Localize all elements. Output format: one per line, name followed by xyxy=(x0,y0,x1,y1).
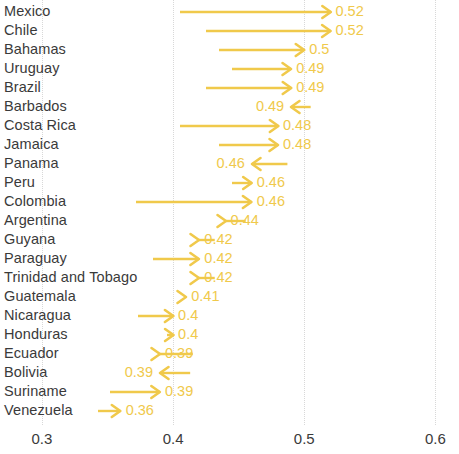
arrow-row: 0.49 xyxy=(0,60,459,78)
value-label: 0.49 xyxy=(256,99,284,114)
x-tick-label: 0.5 xyxy=(294,431,315,446)
arrow-row: 0.46 xyxy=(0,155,459,173)
value-label: 0.39 xyxy=(165,346,193,361)
arrow-glyph xyxy=(91,402,127,420)
arrow-row: 0.39 xyxy=(0,345,459,363)
arrow-glyph xyxy=(173,117,285,135)
arrow-row: 0.4 xyxy=(0,307,459,325)
value-label: 0.39 xyxy=(165,384,193,399)
x-axis: 0.30.40.50.6 xyxy=(0,425,459,454)
arrow-row: 0.42 xyxy=(0,250,459,268)
x-tick-label: 0.3 xyxy=(32,431,53,446)
value-label: 0.46 xyxy=(257,194,285,209)
arrow-row: 0.52 xyxy=(0,3,459,21)
arrow-glyph xyxy=(212,41,311,59)
arrow-glyph xyxy=(146,250,206,268)
arrow-row: 0.39 xyxy=(0,364,459,382)
arrow-glyph xyxy=(103,383,167,401)
value-label: 0.46 xyxy=(217,156,245,171)
value-label: 0.49 xyxy=(296,61,324,76)
value-label: 0.49 xyxy=(296,80,324,95)
arrow-glyph xyxy=(245,155,294,173)
arrow-row: 0.41 xyxy=(0,288,459,306)
arrow-row: 0.42 xyxy=(0,269,459,287)
arrow-row: 0.48 xyxy=(0,136,459,154)
arrow-glyph xyxy=(131,307,180,325)
value-label: 0.52 xyxy=(335,23,363,38)
arrow-glyph xyxy=(225,174,259,192)
arrow-glyph xyxy=(284,98,318,116)
value-label: 0.44 xyxy=(231,213,259,228)
value-label: 0.39 xyxy=(125,365,153,380)
arrow-row: 0.36 xyxy=(0,402,459,420)
value-label: 0.42 xyxy=(204,270,232,285)
value-label: 0.36 xyxy=(126,403,154,418)
value-label: 0.4 xyxy=(178,327,198,342)
arrow-glyph xyxy=(173,3,338,21)
value-label: 0.4 xyxy=(178,308,198,323)
value-label: 0.48 xyxy=(283,137,311,152)
arrow-row: 0.39 xyxy=(0,383,459,401)
arrow-row: 0.49 xyxy=(0,79,459,97)
arrow-glyph xyxy=(212,136,285,154)
arrow-glyph xyxy=(225,60,298,78)
arrow-row: 0.46 xyxy=(0,193,459,211)
plot-area: MexicoChileBahamasUruguayBrazilBarbadosC… xyxy=(0,0,459,425)
arrow-row: 0.4 xyxy=(0,326,459,344)
arrow-row: 0.49 xyxy=(0,98,459,116)
arrow-row: 0.48 xyxy=(0,117,459,135)
value-label: 0.46 xyxy=(257,175,285,190)
arrow-glyph xyxy=(199,79,298,97)
arrow-row: 0.42 xyxy=(0,231,459,249)
arrow-glyph xyxy=(129,193,258,211)
value-label: 0.48 xyxy=(283,118,311,133)
value-label: 0.52 xyxy=(335,4,363,19)
value-label: 0.42 xyxy=(204,232,232,247)
arrow-row: 0.5 xyxy=(0,41,459,59)
x-tick-label: 0.6 xyxy=(425,431,446,446)
arrow-change-chart: MexicoChileBahamasUruguayBrazilBarbadosC… xyxy=(0,0,459,454)
arrow-row: 0.44 xyxy=(0,212,459,230)
arrow-glyph xyxy=(199,22,338,40)
arrow-row: 0.52 xyxy=(0,22,459,40)
value-label: 0.42 xyxy=(204,251,232,266)
arrow-glyph xyxy=(160,326,181,344)
value-label: 0.41 xyxy=(191,289,219,304)
arrow-row: 0.46 xyxy=(0,174,459,192)
arrow-glyph xyxy=(153,364,197,382)
x-tick-label: 0.4 xyxy=(163,431,184,446)
value-label: 0.5 xyxy=(309,42,329,57)
